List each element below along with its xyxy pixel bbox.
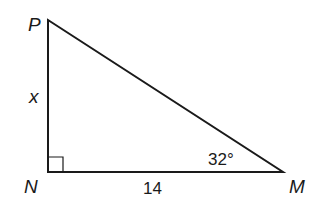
triangle-svg: P x N 14 32° M <box>0 0 326 213</box>
vertex-label-p: P <box>28 14 41 35</box>
triangle-diagram: P x N 14 32° M <box>0 0 326 213</box>
side-label-14: 14 <box>143 179 162 198</box>
angle-label-m: 32° <box>208 150 234 169</box>
vertex-label-n: N <box>24 176 38 197</box>
triangle-pnm <box>48 20 283 172</box>
right-angle-marker <box>48 157 63 172</box>
side-label-x: x <box>28 86 40 107</box>
vertex-label-m: M <box>289 176 305 197</box>
